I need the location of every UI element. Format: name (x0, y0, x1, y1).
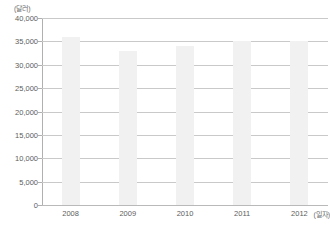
x-axis-tick-label: 2009 (119, 209, 136, 218)
x-axis-unit-label: (일자) (313, 209, 330, 219)
y-axis-tick-label: 30,000 (0, 60, 38, 69)
y-axis-tick-mark (38, 205, 42, 206)
y-axis-tick-mark (38, 158, 42, 159)
y-axis-tick-label: 5,000 (0, 177, 38, 186)
bar (176, 46, 194, 205)
bar (233, 41, 251, 205)
x-axis-tick-label: 2012 (291, 209, 308, 218)
bar (62, 37, 80, 205)
y-axis-tick-label: 40,000 (0, 14, 38, 23)
y-axis-tick-label: 35,000 (0, 37, 38, 46)
gridline (42, 18, 328, 19)
gridline (42, 41, 328, 42)
y-axis-tick-mark (38, 65, 42, 66)
y-axis-tick-label: 15,000 (0, 130, 38, 139)
y-axis-tick-mark (38, 182, 42, 183)
y-axis-tick-label: 0 (0, 201, 38, 210)
bar (119, 51, 137, 205)
bar (290, 41, 308, 205)
y-axis-tick-mark (38, 18, 42, 19)
y-axis-tick-mark (38, 41, 42, 42)
y-axis-tick-mark (38, 112, 42, 113)
x-axis-tick-label: 2008 (62, 209, 79, 218)
y-axis-unit-label: (달러) (14, 3, 31, 13)
x-axis-tick-label: 2011 (234, 209, 250, 218)
y-axis-tick-label: 20,000 (0, 107, 38, 116)
plot-area (42, 18, 328, 205)
y-axis-tick-mark (38, 88, 42, 89)
y-axis-tick-label: 25,000 (0, 84, 38, 93)
x-axis-tick-label: 2010 (177, 209, 194, 218)
y-axis-tick-label: 10,000 (0, 154, 38, 163)
y-axis-tick-mark (38, 135, 42, 136)
gridline (42, 205, 328, 206)
